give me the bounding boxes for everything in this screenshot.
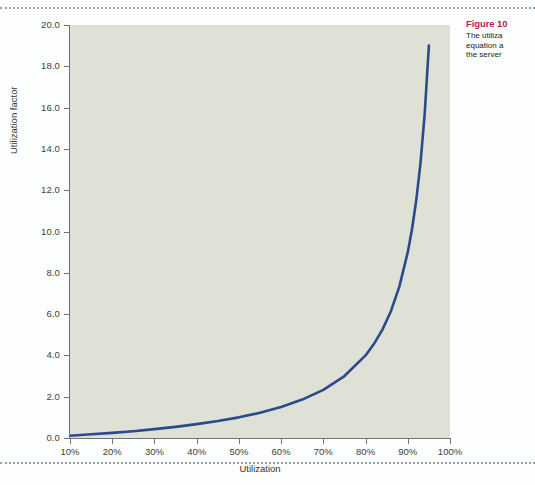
x-axis-tick	[408, 438, 409, 444]
x-axis-tick-label: 100%	[430, 446, 470, 457]
x-axis-tick-label: 10%	[50, 446, 90, 457]
caption-title: Figure 10	[466, 18, 535, 29]
chart-figure: 20.018.016.014.012.010.08.06.04.02.00.0 …	[0, 14, 460, 458]
y-axis-tick-label: 2.0	[20, 391, 60, 403]
figure-caption: Figure 10 The utilizaequation athe serve…	[466, 18, 535, 60]
x-axis-tick	[281, 438, 282, 444]
y-axis-tick	[64, 397, 70, 398]
y-axis-title: Utilization factor	[8, 86, 19, 154]
x-axis-tick	[112, 438, 113, 444]
y-axis-tick-label-text: 8.0	[22, 267, 60, 278]
caption-line: the server	[466, 50, 535, 60]
y-axis-tick-label: 14.0	[20, 143, 60, 155]
chart-line-svg	[70, 25, 450, 438]
y-axis-tick-label-text: 12.0	[22, 184, 60, 195]
x-axis-tick	[154, 438, 155, 444]
y-axis-tick-label-text: 6.0	[22, 308, 60, 319]
x-axis-tick	[323, 438, 324, 444]
y-axis-tick-label-text: 0.0	[22, 432, 60, 443]
top-dotted-rule	[0, 7, 535, 9]
x-axis-tick-label: 20%	[92, 446, 132, 457]
caption-body: The utilizaequation athe server	[466, 31, 535, 60]
figure-page: 20.018.016.014.012.010.08.06.04.02.00.0 …	[0, 0, 535, 485]
x-axis-tick-label: 80%	[346, 446, 386, 457]
y-axis-tick-label: 16.0	[20, 102, 60, 114]
x-axis-tick	[70, 438, 71, 444]
y-axis-tick-label-text: 10.0	[22, 226, 60, 237]
utilization-factor-curve	[70, 46, 429, 436]
x-axis-tick-label: 30%	[134, 446, 174, 457]
y-axis-tick	[64, 232, 70, 233]
y-axis-tick-label: 10.0	[20, 226, 60, 238]
y-axis-tick	[64, 66, 70, 67]
x-axis-tick-label: 70%	[303, 446, 343, 457]
x-axis-tick-label: 60%	[261, 446, 301, 457]
y-axis-tick	[64, 149, 70, 150]
x-axis-tick-label: 50%	[219, 446, 259, 457]
y-axis-tick	[64, 25, 70, 26]
plot-area	[70, 25, 450, 438]
y-axis-tick-label: 4.0	[20, 349, 60, 361]
y-axis-tick-label-text: 18.0	[22, 60, 60, 71]
x-axis-line	[69, 438, 451, 439]
y-axis-tick-label: 18.0	[20, 60, 60, 72]
y-axis-tick	[64, 314, 70, 315]
y-axis-tick-label: 12.0	[20, 184, 60, 196]
x-axis-tick	[239, 438, 240, 444]
y-axis-tick-label-text: 2.0	[22, 391, 60, 402]
y-axis-tick-label: 20.0	[20, 19, 60, 31]
x-axis-title: Utilization	[70, 463, 450, 474]
x-axis-tick-label: 90%	[388, 446, 428, 457]
y-axis-tick-label: 8.0	[20, 267, 60, 279]
x-axis-tick-label: 40%	[177, 446, 217, 457]
y-axis-tick	[64, 355, 70, 356]
y-axis-tick	[64, 190, 70, 191]
y-axis-tick	[64, 273, 70, 274]
y-axis-tick-label-text: 16.0	[22, 102, 60, 113]
x-axis-tick	[450, 438, 451, 444]
y-axis-tick-label-text: 20.0	[22, 19, 60, 30]
x-axis-tick	[366, 438, 367, 444]
y-axis-tick	[64, 108, 70, 109]
caption-line: equation a	[466, 41, 535, 51]
caption-line: The utiliza	[466, 31, 535, 41]
y-axis-tick-label-text: 4.0	[22, 349, 60, 360]
y-axis-tick-label-text: 14.0	[22, 143, 60, 154]
y-axis-tick-label: 0.0	[20, 432, 60, 444]
x-axis-tick	[197, 438, 198, 444]
y-axis-tick-label: 6.0	[20, 308, 60, 320]
